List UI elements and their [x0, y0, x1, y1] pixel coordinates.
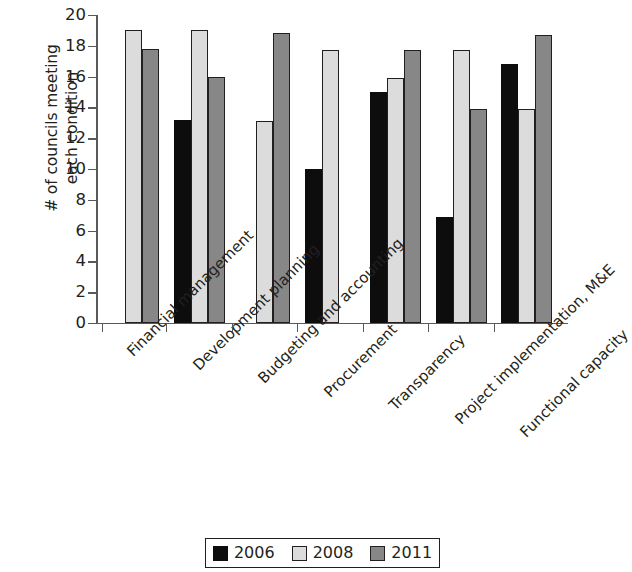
bar-2011 — [208, 77, 225, 323]
bar-2006 — [436, 217, 453, 323]
y-axis-tick-label: 2 — [52, 284, 86, 300]
bar-group — [370, 15, 421, 323]
bar-2006 — [501, 64, 518, 323]
legend-label: 2006 — [234, 545, 275, 561]
x-axis-tick-mark — [363, 324, 364, 332]
plot-area — [96, 15, 568, 323]
y-axis-tick-mark — [88, 261, 96, 262]
y-axis-tick-mark — [88, 107, 96, 108]
y-axis-tick-label: 4 — [52, 253, 86, 269]
y-axis-tick-label: 6 — [52, 223, 86, 239]
bar-2006 — [370, 92, 387, 323]
x-axis-tick-mark — [297, 324, 298, 332]
x-axis-label: Procurement — [321, 321, 401, 401]
y-axis-tick-labels: 20181614121086420 — [52, 0, 86, 340]
bar-2008 — [387, 78, 404, 323]
y-axis-tick-mark — [88, 292, 96, 293]
bar-group — [305, 15, 356, 323]
x-axis-label: Transparency — [386, 331, 469, 414]
y-axis-tick-label: 12 — [52, 130, 86, 146]
legend-swatch — [213, 546, 228, 561]
bar-2011 — [404, 50, 421, 323]
legend-item: 2006 — [213, 545, 275, 561]
x-axis-tick-mark — [428, 324, 429, 332]
y-axis-tick-mark — [88, 15, 96, 16]
y-axis-tick-mark — [88, 46, 96, 47]
legend-item: 2011 — [370, 545, 432, 561]
bar-2011 — [470, 109, 487, 323]
bar-2008 — [322, 50, 339, 323]
bar-2008 — [125, 30, 142, 323]
x-axis-category-labels: Financial managementDevelopment planning… — [0, 330, 577, 520]
y-axis-tick-mark — [88, 231, 96, 232]
bar-2011 — [142, 49, 159, 323]
legend-swatch — [370, 546, 385, 561]
bar-2008 — [453, 50, 470, 323]
legend-item: 2008 — [292, 545, 354, 561]
legend-swatch — [292, 546, 307, 561]
y-axis-tick-label: 14 — [52, 99, 86, 115]
chart-legend: 200620082011 — [205, 538, 440, 568]
y-axis-tick-label: 10 — [52, 161, 86, 177]
y-axis-tick-mark — [88, 323, 96, 324]
y-axis-tick-mark — [88, 200, 96, 201]
y-axis-tick-mark — [88, 77, 96, 78]
y-axis-tick-label: 18 — [52, 38, 86, 54]
x-axis-tick-mark — [232, 324, 233, 332]
legend-label: 2011 — [391, 545, 432, 561]
bar-2011 — [535, 35, 552, 323]
y-axis-tick-label: 20 — [52, 7, 86, 23]
bar-group — [501, 15, 552, 323]
x-axis-tick-mark — [102, 324, 103, 332]
x-axis-tick-mark — [494, 324, 495, 332]
y-axis-tick-mark — [88, 169, 96, 170]
y-axis-tick-mark — [88, 138, 96, 139]
y-axis-tick-label: 0 — [52, 315, 86, 331]
bar-2008 — [518, 109, 535, 323]
x-axis-tick-mark — [166, 324, 167, 332]
legend-label: 2008 — [313, 545, 354, 561]
bar-group — [436, 15, 487, 323]
y-axis-tick-label: 16 — [52, 69, 86, 85]
y-axis-tick-label: 8 — [52, 192, 86, 208]
bar-group — [108, 15, 159, 323]
